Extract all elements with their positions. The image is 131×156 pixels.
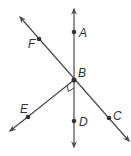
point-B <box>72 78 77 83</box>
point-D <box>72 119 77 124</box>
label-B: B <box>78 66 86 80</box>
point-C <box>107 116 112 121</box>
point-A <box>72 30 77 35</box>
label-A: A <box>78 26 87 40</box>
right-angle-marker <box>67 85 74 91</box>
label-C: C <box>113 109 122 123</box>
label-F: F <box>28 37 36 51</box>
label-E: E <box>20 102 29 116</box>
label-D: D <box>79 115 88 129</box>
geometry-diagram: A B C D E F <box>0 0 131 156</box>
diagram-canvas: A B C D E F <box>0 0 131 156</box>
point-F <box>37 37 42 42</box>
